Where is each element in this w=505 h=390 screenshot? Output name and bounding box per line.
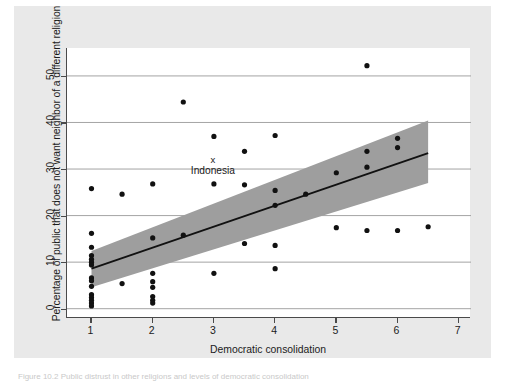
- data-point: [119, 192, 124, 197]
- data-point: [364, 165, 369, 170]
- figure-container: Percentage of public that does not want …: [0, 0, 505, 390]
- x-tick-label: 4: [264, 324, 284, 336]
- data-point: [364, 149, 369, 154]
- y-tick-label: 0: [45, 297, 56, 317]
- data-point: [273, 243, 278, 248]
- data-point: [364, 63, 369, 68]
- data-point: [211, 181, 216, 186]
- x-tick-mark: [152, 318, 153, 323]
- data-point: [273, 188, 278, 193]
- data-point: [303, 192, 308, 197]
- y-tick-mark: [61, 309, 66, 310]
- data-point: [181, 99, 186, 104]
- data-point: [334, 225, 339, 230]
- data-point: [395, 136, 400, 141]
- plot-area: [66, 48, 470, 318]
- y-tick-mark: [61, 76, 66, 77]
- data-point: [273, 203, 278, 208]
- data-point: [89, 278, 94, 283]
- indonesia-marker: x: [198, 154, 228, 165]
- x-tick-label: 2: [142, 324, 162, 336]
- chart-svg: [67, 48, 471, 318]
- y-tick-label: 30: [45, 158, 56, 178]
- x-tick-label: 3: [203, 324, 223, 336]
- data-point: [211, 271, 216, 276]
- x-tick-mark: [274, 318, 275, 323]
- data-point: [242, 182, 247, 187]
- data-point: [273, 266, 278, 271]
- x-tick-mark: [397, 318, 398, 323]
- data-point: [364, 228, 369, 233]
- y-tick-mark: [61, 169, 66, 170]
- y-tick-mark: [61, 216, 66, 217]
- data-point: [426, 224, 431, 229]
- y-tick-label: 10: [45, 251, 56, 271]
- figure-caption: Figure 10.2 Public distrust in other rel…: [18, 372, 488, 381]
- data-point: [150, 181, 155, 186]
- data-point: [181, 233, 186, 238]
- x-tick-label: 7: [448, 324, 468, 336]
- data-point: [150, 279, 155, 284]
- trend-line: [91, 153, 428, 268]
- data-point: [150, 235, 155, 240]
- x-tick-mark: [335, 318, 336, 323]
- data-point: [89, 262, 94, 267]
- x-tick-label: 1: [80, 324, 100, 336]
- data-point: [119, 281, 124, 286]
- y-tick-label: 20: [45, 204, 56, 224]
- data-point: [89, 245, 94, 250]
- y-tick-mark: [61, 122, 66, 123]
- y-tick-label: 50: [45, 64, 56, 84]
- x-tick-label: 5: [325, 324, 345, 336]
- data-point: [334, 170, 339, 175]
- x-axis-title: Democratic consolidation: [66, 344, 470, 355]
- data-point: [242, 241, 247, 246]
- y-tick-label: 40: [45, 111, 56, 131]
- x-tick-mark: [458, 318, 459, 323]
- data-point: [211, 134, 216, 139]
- data-point: [89, 303, 94, 308]
- data-point: [150, 285, 155, 290]
- x-tick-label: 6: [387, 324, 407, 336]
- data-point: [273, 133, 278, 138]
- indonesia-label: Indonesia: [168, 165, 258, 176]
- data-point: [89, 186, 94, 191]
- x-tick-mark: [90, 318, 91, 323]
- data-point: [242, 149, 247, 154]
- data-point: [89, 284, 94, 289]
- y-tick-mark: [61, 262, 66, 263]
- data-point: [395, 228, 400, 233]
- x-tick-mark: [213, 318, 214, 323]
- data-point: [150, 271, 155, 276]
- data-point: [150, 301, 155, 306]
- data-point: [395, 145, 400, 150]
- data-point: [89, 231, 94, 236]
